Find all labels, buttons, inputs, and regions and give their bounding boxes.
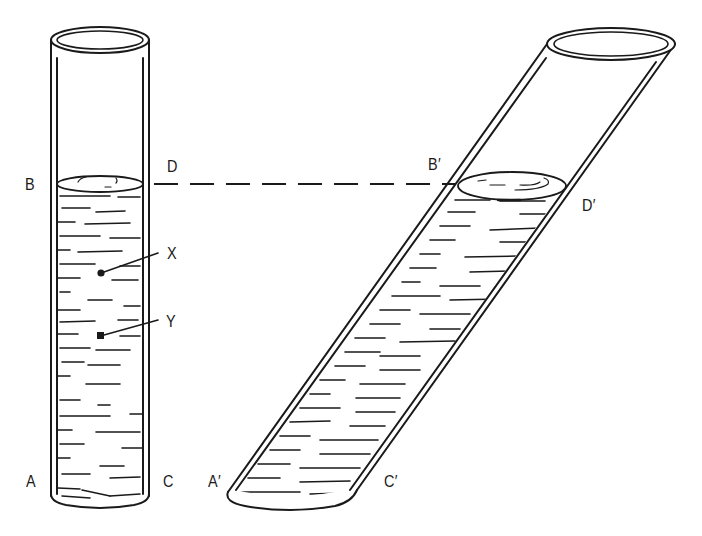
tilted-tube <box>227 28 675 510</box>
label-a-prime: A′ <box>208 473 221 490</box>
label-c-prime: C′ <box>384 473 398 490</box>
right-tube-inner-wall-left <box>236 58 546 490</box>
label-b-prime: B′ <box>428 156 441 173</box>
right-tube-inner-wall-right <box>350 62 656 490</box>
left-tube-rim-inner <box>57 31 143 49</box>
label-a: A <box>26 473 36 490</box>
right-tube-outer-wall-left <box>228 44 547 492</box>
left-liquid-hatching <box>58 196 142 498</box>
point-y-marker <box>97 332 104 339</box>
label-b: B <box>25 176 35 193</box>
label-d-prime: D′ <box>582 197 596 214</box>
point-x-marker <box>97 269 104 276</box>
right-tube-bottom <box>227 490 357 510</box>
diagram-canvas: B D A C X Y B′ D′ A′ C′ <box>0 0 702 536</box>
right-liquid-surface <box>458 172 566 200</box>
label-x: X <box>167 245 177 262</box>
vertical-tube <box>51 27 158 508</box>
label-d: D <box>167 158 178 175</box>
label-y: Y <box>166 313 176 330</box>
right-liquid-hatching <box>240 200 548 500</box>
right-tube-outer-wall-right <box>357 44 675 490</box>
tubes-illustration <box>0 0 702 536</box>
left-liquid-surface <box>57 176 143 192</box>
label-c: C <box>163 473 174 490</box>
